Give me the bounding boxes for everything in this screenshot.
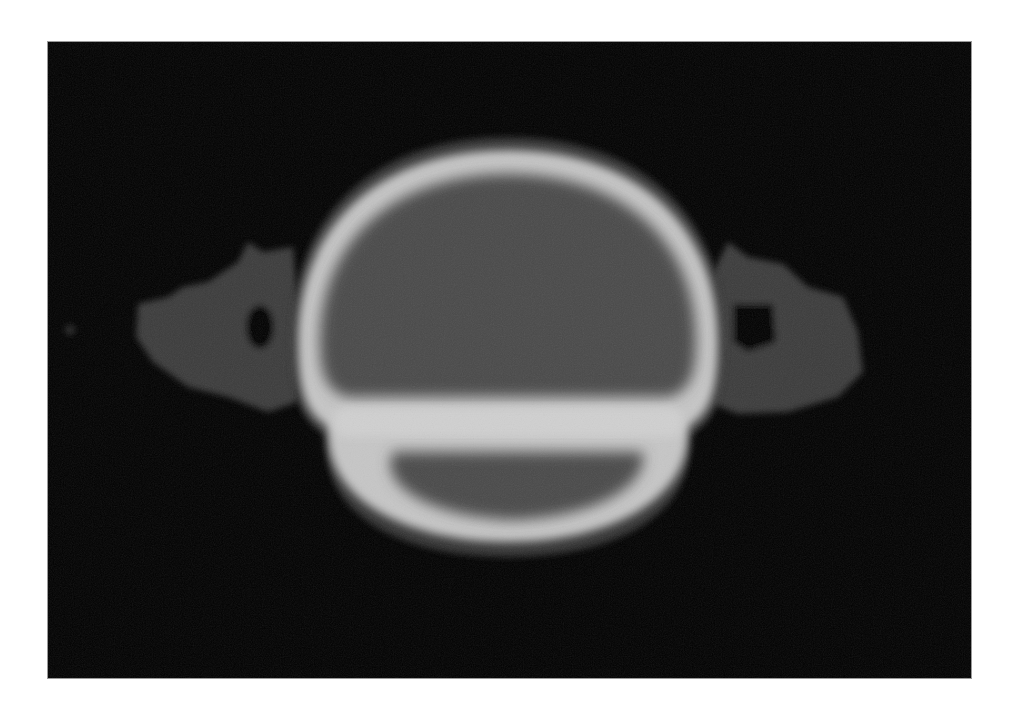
ct-scan-graphic [48,42,972,679]
image-grain [48,42,972,679]
ct-scan-image [47,41,972,679]
